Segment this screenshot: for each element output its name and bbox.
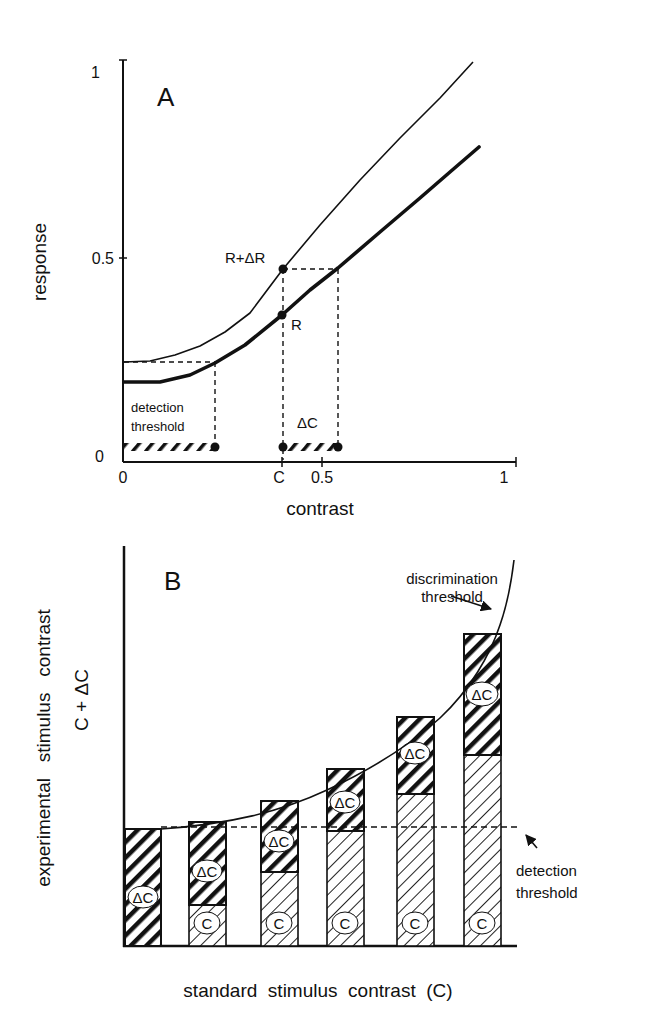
y-tick-0-5: 0.5 — [92, 250, 114, 267]
svg-text:ΔC: ΔC — [405, 745, 426, 762]
point-r — [278, 311, 287, 320]
svg-text:ΔC: ΔC — [197, 863, 218, 880]
label-r: R — [291, 316, 302, 333]
x-tick-c: C — [273, 469, 285, 486]
bar-5: ΔC C — [397, 717, 434, 946]
svg-text:ΔC: ΔC — [335, 794, 356, 811]
panel-b-xlabel: standard stimulus contrast (C) — [183, 980, 452, 1001]
label-discrimination-threshold: threshold — [421, 588, 483, 605]
svg-text:C: C — [202, 915, 213, 932]
panel-a: 1 0.5 0 0 C 0.5 1 response contrast A — [29, 60, 516, 519]
label-detection-b: detection — [516, 862, 577, 879]
panel-a-ylabel: response — [29, 223, 50, 301]
x-tick-0-5: 0.5 — [311, 469, 333, 486]
x-tick-0: 0 — [119, 469, 128, 486]
label-detection: detection — [131, 400, 184, 415]
x-tick-1: 1 — [500, 469, 509, 486]
bar-1: ΔC — [125, 829, 161, 946]
panel-a-letter: A — [157, 82, 175, 112]
detection-threshold-interval — [124, 443, 215, 451]
y-tick-1: 1 — [91, 64, 100, 81]
bar-2: ΔC C — [189, 822, 226, 946]
figure: 1 0.5 0 0 C 0.5 1 response contrast A — [0, 0, 647, 1023]
panel-b: experimental stimulus contrast C + ΔC st… — [33, 546, 578, 1001]
label-delta-c: ΔC — [297, 414, 318, 431]
svg-text:ΔC: ΔC — [133, 889, 154, 906]
detection-arrow-icon — [526, 835, 537, 848]
bar-4: ΔC C — [327, 769, 364, 946]
svg-text:C: C — [274, 915, 285, 932]
curve-r — [124, 147, 479, 382]
svg-text:C: C — [340, 915, 351, 932]
panel-b-letter: B — [164, 566, 181, 596]
panel-b-ylabel-2: C + ΔC — [71, 669, 92, 731]
panel-a-xlabel: contrast — [286, 498, 354, 519]
svg-text:ΔC: ΔC — [472, 686, 493, 703]
delta-c-interval — [284, 443, 338, 451]
svg-text:ΔC: ΔC — [269, 833, 290, 850]
label-threshold: threshold — [131, 419, 184, 434]
y-tick-0: 0 — [95, 448, 104, 465]
panel-b-ylabel: experimental stimulus contrast — [33, 608, 54, 886]
bar-6: ΔC C — [464, 634, 501, 946]
svg-text:C: C — [477, 915, 488, 932]
label-discrimination: discrimination — [406, 570, 498, 587]
label-r-plus-dr: R+ΔR — [225, 249, 266, 266]
svg-text:C: C — [410, 915, 421, 932]
point-r-plus-dr — [279, 265, 288, 274]
bar-3: ΔC C — [261, 801, 298, 946]
label-detection-threshold-b: threshold — [516, 884, 578, 901]
